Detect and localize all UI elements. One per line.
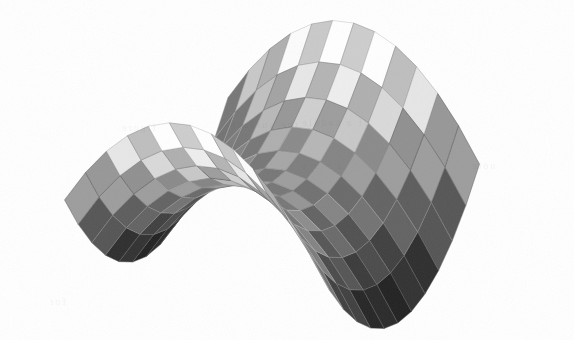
surface-plot-svg [0,0,574,340]
figure-container: the surfaceof a saddlefigurez = x y67for… [0,0,574,340]
scan-grain-overlay [0,0,574,340]
grain-rect [0,0,574,340]
